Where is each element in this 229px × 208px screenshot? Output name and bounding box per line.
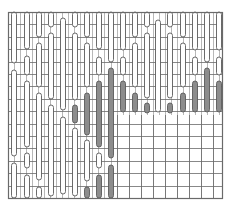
capsule-light	[49, 33, 54, 99]
capsule-light	[12, 12, 17, 63]
capsule-column	[61, 18, 66, 194]
capsule-light	[25, 153, 30, 168]
capsule-column	[133, 12, 138, 112]
capsule-light	[49, 12, 54, 27]
capsule-light	[121, 12, 126, 50]
capsule-light	[97, 57, 102, 75]
capsule-dark	[73, 105, 78, 123]
capsule-light	[61, 117, 66, 194]
capsule-dark	[109, 165, 114, 198]
capsule-light	[97, 153, 102, 168]
capsule-light	[85, 43, 90, 87]
capsule-light	[133, 12, 138, 37]
capsule-dark	[109, 68, 114, 158]
capsule-column	[97, 12, 102, 198]
capsule-light	[25, 81, 30, 147]
pattern-chart-canvas	[0, 0, 229, 208]
capsule-light	[97, 12, 102, 49]
capsule-column	[193, 12, 198, 112]
pattern-chart	[0, 0, 229, 208]
capsule-column	[25, 12, 30, 198]
capsule-light	[217, 12, 222, 50]
capsule-light	[37, 93, 42, 180]
capsule-light	[73, 128, 78, 196]
capsule-column	[12, 12, 17, 198]
capsule-light	[217, 57, 222, 75]
capsule-light	[168, 33, 173, 98]
capsule-light	[85, 12, 90, 37]
capsule-light	[145, 33, 150, 98]
capsule-light	[145, 12, 150, 27]
capsule-column	[181, 12, 186, 112]
capsule-light	[25, 175, 30, 198]
capsule-column	[73, 12, 78, 196]
capsule-dark	[193, 81, 198, 112]
capsule-dark	[85, 187, 90, 198]
capsule-light	[49, 105, 54, 196]
capsule-light	[12, 70, 17, 156]
capsule-light	[61, 18, 66, 110]
capsule-dark	[145, 103, 150, 113]
capsule-light	[205, 12, 210, 62]
capsule-column	[121, 12, 126, 112]
capsule-light	[25, 56, 30, 75]
capsule-column	[85, 12, 90, 198]
capsule-light	[181, 43, 186, 87]
capsule-light	[25, 12, 30, 49]
capsule-dark	[181, 93, 186, 112]
capsule-light	[73, 12, 78, 27]
capsule-dark	[168, 103, 173, 113]
capsule-light	[37, 43, 42, 87]
capsule-column	[217, 12, 222, 112]
capsule-light	[133, 43, 138, 87]
capsule-light	[109, 12, 114, 62]
capsule-light	[193, 12, 198, 50]
capsule-dark	[97, 175, 102, 198]
capsule-light	[73, 33, 78, 100]
capsule-dark	[85, 93, 90, 135]
capsule-dark	[121, 81, 126, 112]
capsule-column	[37, 12, 42, 198]
capsule-light	[121, 57, 126, 75]
capsule-column	[145, 12, 150, 113]
capsule-light	[85, 140, 90, 181]
capsule-column	[205, 12, 210, 112]
capsule-dark	[133, 93, 138, 112]
capsule-light	[37, 12, 42, 37]
capsule-light	[156, 20, 161, 112]
capsule-light	[168, 12, 173, 27]
capsule-light	[193, 57, 198, 75]
capsule-column	[156, 20, 161, 112]
capsule-column	[109, 12, 114, 198]
capsule-column	[49, 12, 54, 196]
capsule-light	[181, 12, 186, 37]
capsule-dark	[205, 68, 210, 112]
capsule-light	[12, 163, 17, 198]
capsule-light	[37, 187, 42, 198]
coarse-grid-region	[117, 115, 223, 198]
capsule-dark	[217, 81, 222, 112]
capsule-dark	[97, 81, 102, 147]
coarse-region-bg	[117, 115, 222, 198]
